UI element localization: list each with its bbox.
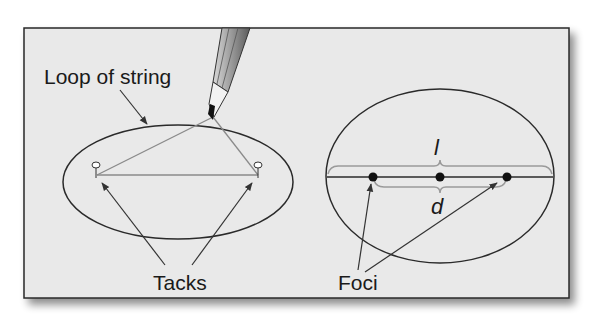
focus-right-point: [503, 173, 512, 182]
focal-distance-label: d: [431, 194, 444, 219]
tacks-label: Tacks: [153, 271, 207, 294]
loop-of-string-label: Loop of string: [44, 65, 171, 88]
focus-left-point: [369, 173, 378, 182]
center-point: [436, 173, 445, 182]
ellipse-construction-diagram: Loop of string Tacks l d Foci: [0, 0, 596, 332]
foci-label: Foci: [338, 271, 378, 294]
